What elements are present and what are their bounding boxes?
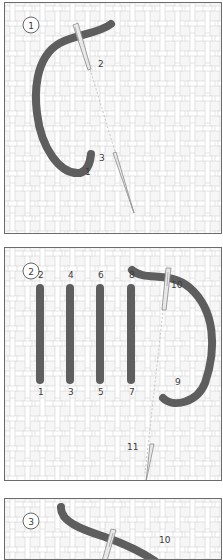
svg-text:1: 1 [85,167,91,177]
svg-text:7: 7 [129,387,135,397]
svg-text:3: 3 [68,387,74,397]
svg-text:11: 11 [127,442,138,452]
step-2-illustration: 2 2 4 6 8 10 1 3 5 7 9 11 [5,248,222,481]
svg-text:1: 1 [28,21,34,31]
svg-text:6: 6 [98,270,104,280]
step-2-panel: 2 2 4 6 8 10 1 3 5 7 9 11 [4,247,222,481]
step-number-badge: 3 [23,513,39,529]
svg-text:4: 4 [68,270,74,280]
svg-text:2: 2 [38,270,44,280]
step-1-panel: 1 2 3 1 [4,2,222,234]
step-3-panel: 3 10 [4,498,222,560]
step-number-badge: 1 [23,17,39,33]
svg-text:3: 3 [28,517,34,527]
svg-text:3: 3 [99,153,105,163]
step-number-badge: 2 [23,263,39,279]
step-1-illustration: 1 2 3 1 [5,3,222,234]
svg-text:10: 10 [159,535,171,545]
step-3-illustration: 3 10 [5,499,222,560]
svg-text:1: 1 [38,387,44,397]
svg-text:5: 5 [98,387,104,397]
svg-text:9: 9 [175,377,181,387]
svg-text:2: 2 [98,59,104,69]
svg-text:10: 10 [171,280,183,290]
svg-text:8: 8 [129,270,135,280]
svg-text:2: 2 [28,267,34,277]
